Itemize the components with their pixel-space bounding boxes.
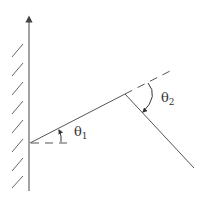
theta2-label: θ2 [161,91,175,107]
diagram-svg [0,0,207,199]
wall-hatching [12,44,23,188]
theta1-label: θ1 [74,125,88,141]
theta1-arc [59,130,61,142]
reflection-diagram: θ1 θ2 [0,0,207,199]
theta2-arc [143,83,152,112]
reflected-ray [125,94,194,168]
